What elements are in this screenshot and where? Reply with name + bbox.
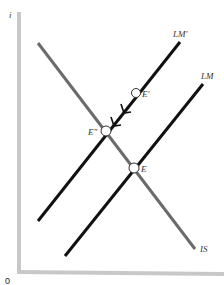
label-e: E — [140, 164, 147, 174]
label-lm-prime: LM′ — [172, 29, 189, 39]
label-e-double-prime: E″ — [87, 127, 97, 137]
x-axis — [17, 272, 224, 274]
point-e-double-prime — [101, 126, 111, 136]
label-lm: LM — [200, 71, 214, 81]
label-e-prime: E′ — [141, 89, 150, 99]
is-curve — [38, 43, 195, 249]
y-axis-label: i — [9, 10, 12, 20]
origin-label: 0 — [5, 276, 10, 285]
label-is: IS — [199, 244, 208, 254]
point-e-prime — [132, 89, 141, 98]
is-lm-diagram: i 0 LM′ LM IS E′ E″ E — [0, 0, 224, 285]
point-e — [129, 163, 139, 173]
